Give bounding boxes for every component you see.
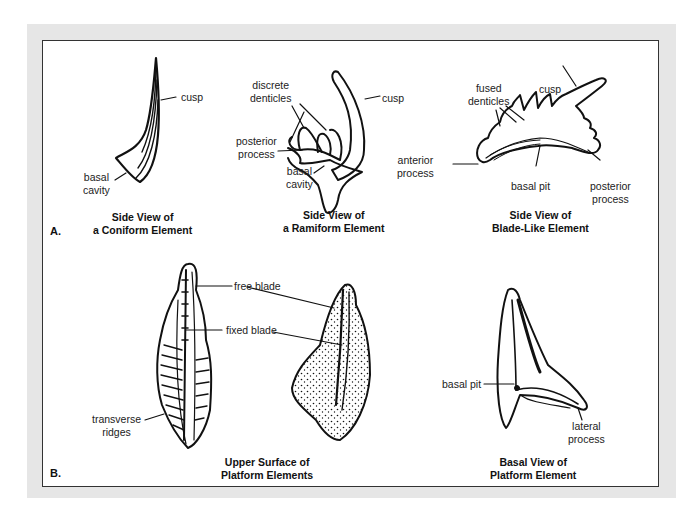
label-basal-pit-platform: basal pit [442,378,481,391]
label-cusp-coniform: cusp [181,91,203,104]
label-fused-denticles: fused denticles [468,82,509,108]
coniform-element-drawing [115,58,176,182]
caption-coniform: Side View of a Coniform Element [93,211,192,237]
platform-upper-stippled-drawing [247,284,370,440]
platform-upper-ridged-drawing [145,264,232,448]
label-basal-cavity-ramiform: basal cavity [286,165,313,191]
section-b-marker: B. [50,467,61,479]
label-basal-cavity-coniform: basal cavity [83,171,110,197]
ramiform-element-drawing [278,71,380,212]
label-lateral-process: lateral process [568,420,605,446]
label-posterior-process-blade-like: posterior process [590,180,631,206]
section-a-marker: A. [50,225,61,237]
caption-platform-upper: Upper Surface of Platform Elements [221,456,313,482]
caption-blade-like: Side View of Blade-Like Element [492,209,589,235]
caption-ramiform: Side View of a Ramiform Element [283,209,385,235]
label-discrete-denticles: discrete denticles [250,79,291,105]
label-cusp-blade-like: cusp [539,83,561,96]
label-free-blade: free blade [234,280,281,293]
label-transverse-ridges: transverse ridges [92,413,141,439]
blade-like-element-drawing [453,66,606,166]
caption-platform-basal: Basal View of Platform Element [490,456,576,482]
label-basal-pit-blade-like: basal pit [511,180,550,193]
label-cusp-ramiform: cusp [382,92,404,105]
label-anterior-process: anterior process [397,154,434,180]
label-fixed-blade: fixed blade [226,324,277,337]
label-posterior-process-ramiform: posterior process [236,135,277,161]
platform-basal-drawing [484,289,587,428]
